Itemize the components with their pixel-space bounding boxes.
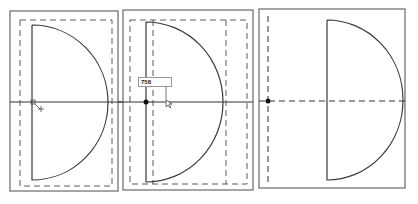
panel-3-semicircle[interactable] bbox=[327, 20, 403, 180]
panel-1 bbox=[10, 11, 123, 191]
panel-1-frame bbox=[10, 11, 118, 191]
panel-2-origin-point[interactable] bbox=[144, 100, 149, 105]
panel-3-frame bbox=[259, 9, 405, 188]
dimension-input[interactable]: 758 bbox=[138, 77, 172, 87]
panel-2-frame bbox=[123, 10, 253, 190]
pointer-cursor-icon bbox=[166, 100, 172, 108]
diagram-canvas bbox=[0, 0, 418, 204]
panel-3 bbox=[259, 9, 405, 188]
panel-2 bbox=[118, 10, 253, 190]
dimension-value: 758 bbox=[141, 79, 151, 85]
panel-3-origin-point[interactable] bbox=[266, 99, 271, 104]
panel-1-margin bbox=[20, 20, 112, 186]
